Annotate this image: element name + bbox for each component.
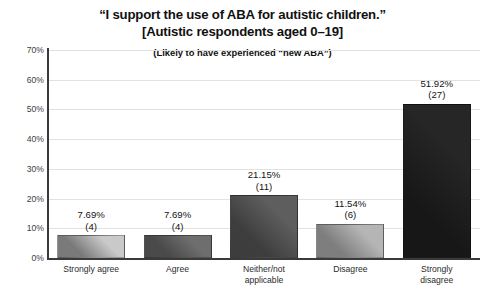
chart-title-line-2: [Autistic respondents aged 0–19] <box>0 23 485 40</box>
bar-percent-text: 21.15% <box>216 169 312 181</box>
bar-value-label: 51.92%(27) <box>389 78 485 101</box>
y-axis-tick-label: 20% <box>2 194 44 204</box>
bar-percent-text: 7.69% <box>130 209 226 221</box>
bar-value-label: 21.15%(11) <box>216 169 312 192</box>
x-axis-line <box>47 258 480 260</box>
category-label-2: Agree <box>134 264 220 275</box>
chart-title-line-1: “I support the use of ABA for autistic c… <box>0 6 485 23</box>
bar-group: 21.15%(11) <box>230 50 298 258</box>
x-axis-category-labels: Strongly agreeAgreeNeither/notapplicable… <box>48 264 480 296</box>
bar-strongly-disagree[interactable] <box>403 104 471 258</box>
bar-group: 7.69%(4) <box>144 50 212 258</box>
y-axis-tick-label: 50% <box>2 104 44 114</box>
bar-group: 11.54%(6) <box>316 50 384 258</box>
category-label-line: Strongly <box>394 264 480 275</box>
category-label-line: applicable <box>221 275 307 286</box>
bar-percent-text: 7.69% <box>43 209 139 221</box>
y-axis-tick-label: 0% <box>2 253 44 263</box>
bar-strongly-agree[interactable] <box>57 235 125 258</box>
category-label-line: Strongly agree <box>48 264 134 275</box>
y-axis-ticks: 70%60%50%40%30%20%10%0% <box>0 0 44 297</box>
bar-count-text: (27) <box>389 89 485 101</box>
bar-value-label: 7.69%(4) <box>130 209 226 232</box>
bar-count-text: (4) <box>130 221 226 233</box>
y-axis-tick-label: 40% <box>2 134 44 144</box>
bar-series: 7.69%(4)7.69%(4)21.15%(11)11.54%(6)51.92… <box>48 50 480 258</box>
category-label-3: Neither/notapplicable <box>221 264 307 285</box>
category-label-5: Stronglydisagree <box>394 264 480 285</box>
bar-group: 7.69%(4) <box>57 50 125 258</box>
category-label-line: disagree <box>394 275 480 286</box>
bar-percent-text: 51.92% <box>389 78 485 90</box>
bar-disagree[interactable] <box>316 224 384 258</box>
y-axis-tick-label: 10% <box>2 223 44 233</box>
category-label-1: Strongly agree <box>48 264 134 275</box>
y-axis-tick-label: 30% <box>2 164 44 174</box>
category-label-line: Disagree <box>307 264 393 275</box>
bar-agree[interactable] <box>144 235 212 258</box>
bar-chart: “I support the use of ABA for autistic c… <box>0 0 485 297</box>
bar-neither-not-applicable[interactable] <box>230 195 298 258</box>
bar-count-text: (4) <box>43 221 139 233</box>
category-label-line: Agree <box>134 264 220 275</box>
category-label-line: Neither/not <box>221 264 307 275</box>
y-axis-tick-label: 60% <box>2 75 44 85</box>
bar-group: 51.92%(27) <box>403 50 471 258</box>
bar-count-text: (11) <box>216 181 312 193</box>
bar-value-label: 11.54%(6) <box>302 198 398 221</box>
y-axis-tick-label: 70% <box>2 45 44 55</box>
category-label-4: Disagree <box>307 264 393 275</box>
bar-count-text: (6) <box>302 209 398 221</box>
bar-value-label: 7.69%(4) <box>43 209 139 232</box>
bar-percent-text: 11.54% <box>302 198 398 210</box>
chart-title-block: “I support the use of ABA for autistic c… <box>0 6 485 40</box>
